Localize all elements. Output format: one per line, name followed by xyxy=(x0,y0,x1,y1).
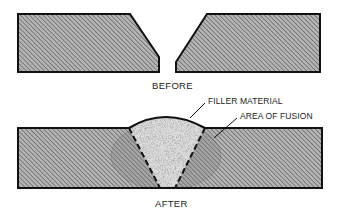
filler-leader-line xyxy=(190,103,205,118)
before-left-plate xyxy=(18,14,159,72)
before-right-plate xyxy=(176,14,320,72)
after-welded-plate xyxy=(18,110,322,190)
filler-material-label: FILLER MATERIAL xyxy=(208,96,283,106)
area-of-fusion-label: AREA OF FUSION xyxy=(240,111,313,121)
before-caption: BEFORE xyxy=(152,80,193,91)
weld-diagram xyxy=(0,0,341,213)
after-caption: AFTER xyxy=(155,198,188,209)
